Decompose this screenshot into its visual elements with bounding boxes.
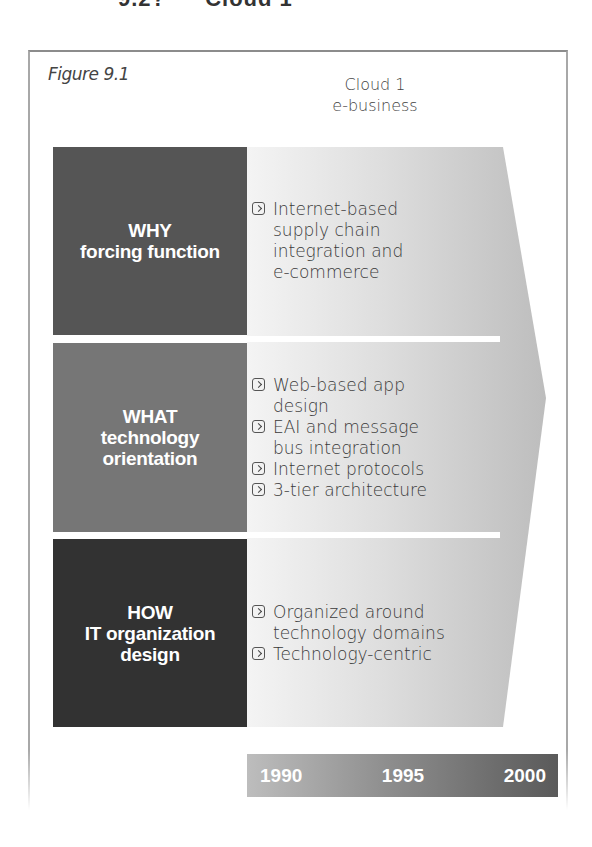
list-item: Organized around technology domains [252,602,502,644]
list-item: Web-based app design [252,375,502,417]
list-item: Internet-based supply chain integration … [252,199,502,283]
row-label-subtitle: forcing function [80,241,220,262]
list-item: 3-tier architecture [252,480,502,501]
timeline-tick: 1990 [260,765,302,787]
row-label-what: WHAT technology orientation [53,343,247,532]
timeline-tick: 2000 [504,765,546,787]
row-label-subtitle: IT organization [85,623,216,644]
chevron-right-box-icon [252,462,265,475]
row-label-subtitle: orientation [101,448,199,469]
row-label-subtitle: technology [101,427,199,448]
bullet-list-how: Organized around technology domains Tech… [252,539,502,727]
section-heading: 9.2? Cloud 1 [118,0,293,6]
chevron-right-box-icon [252,378,265,391]
row-label-title: WHY [80,220,220,241]
row-label-title: HOW [85,602,216,623]
figure-label: Figure 9.1 [48,64,129,84]
bullet-list-why: Internet-based supply chain integration … [252,147,502,335]
bullet-list-what: Web-based app design EAI and message bus… [252,343,502,532]
timeline-bar: 1990 1995 2000 [247,754,558,797]
row-label-title: WHAT [101,406,199,427]
chevron-right-box-icon [252,483,265,496]
section-title: Cloud 1 [205,0,293,11]
chevron-right-box-icon [252,605,265,618]
column-header: Cloud 1 e-business [247,74,503,116]
section-number: 9.2? [118,0,198,12]
chevron-right-box-icon [252,647,265,660]
row-label-how: HOW IT organization design [53,539,247,727]
row-label-why: WHY forcing function [53,147,247,335]
list-item: EAI and message bus integration [252,417,502,459]
chevron-right-box-icon [252,420,265,433]
row-separator [247,532,500,538]
row-label-subtitle: design [85,644,216,665]
list-item: Internet protocols [252,459,502,480]
list-item: Technology-centric [252,644,502,665]
timeline-tick: 1995 [382,765,424,787]
chevron-right-box-icon [252,202,265,215]
row-separator [247,336,500,342]
